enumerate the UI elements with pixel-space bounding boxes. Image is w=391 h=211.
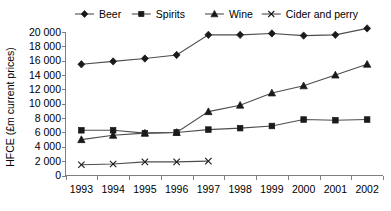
chart-series [78, 25, 371, 68]
series-data-point [364, 117, 370, 123]
chart-series [79, 117, 370, 136]
y-axis-tick-label: 18 000 [29, 40, 61, 52]
chart-series [78, 158, 211, 168]
series-data-point [141, 55, 148, 62]
series-data-point [363, 60, 370, 67]
y-axis-tick-label: 6 000 [35, 126, 61, 138]
series-data-point [301, 117, 307, 123]
legend-marker-square-icon [139, 11, 144, 16]
legend-label: Beer [99, 8, 122, 20]
x-axis-tick-label: 1999 [260, 183, 284, 195]
x-axis-tick-label: 1994 [101, 183, 125, 195]
chart-series-group [78, 25, 371, 168]
legend-label: Cider and perry [286, 8, 359, 20]
series-data-point [205, 31, 212, 38]
series-data-point [332, 31, 339, 38]
series-data-point [364, 25, 371, 32]
series-data-point [78, 61, 85, 68]
series-line [81, 120, 367, 134]
series-data-point [79, 127, 85, 133]
x-axis-tick-label: 1995 [133, 183, 157, 195]
series-data-point [110, 58, 117, 65]
x-axis-tick-label: 2002 [355, 183, 379, 195]
y-axis-title: HFCE (£m current prices) [4, 47, 16, 167]
x-axis-tick-marks [66, 176, 384, 181]
series-data-point [300, 32, 307, 39]
chart-container: BeerSpiritsWineCider and perry HFCE (£m … [0, 0, 391, 211]
series-data-point [333, 117, 339, 123]
y-axis-tick-label: 20 000 [29, 26, 61, 38]
y-axis-tick-label: 2 000 [35, 155, 61, 167]
series-data-point [268, 30, 275, 37]
chart-series [78, 60, 371, 142]
y-axis-tick-label: 16 000 [29, 54, 61, 66]
series-data-point [173, 51, 180, 58]
x-axis-tick-labels: 1993199419951996199719981999200020012002 [70, 183, 379, 195]
x-axis-tick-label: 1998 [228, 183, 252, 195]
y-axis-tick-marks [62, 33, 66, 177]
y-axis-tick-label: 4 000 [35, 140, 61, 152]
x-axis-tick-label: 1997 [197, 183, 221, 195]
y-axis-tick-label: 0 [55, 169, 61, 181]
y-axis-title-label: HFCE (£m current prices) [4, 47, 16, 167]
series-data-point [236, 101, 243, 108]
series-data-point [237, 125, 243, 131]
series-data-point [206, 127, 212, 133]
series-line [81, 28, 367, 64]
series-data-point [237, 31, 244, 38]
x-axis-tick-label: 1996 [165, 183, 189, 195]
legend-item-beer[interactable]: Beer [75, 8, 122, 20]
legend-marker-diamond-icon [81, 11, 88, 18]
chart-legend: BeerSpiritsWineCider and perry [75, 8, 359, 20]
y-axis-tick-label: 8 000 [35, 112, 61, 124]
y-axis-tick-label: 12 000 [29, 83, 61, 95]
legend-item-cider-and-perry[interactable]: Cider and perry [262, 8, 359, 20]
x-axis-tick-label: 2000 [292, 183, 316, 195]
y-axis-tick-labels: 20 00018 00016 00014 00012 00010 0008 00… [29, 26, 61, 182]
x-axis-tick-label: 1993 [70, 183, 94, 195]
legend-item-spirits[interactable]: Spirits [132, 8, 185, 20]
y-axis-tick-label: 10 000 [29, 97, 61, 109]
y-axis-tick-label: 14 000 [29, 69, 61, 81]
legend-label: Wine [229, 8, 253, 20]
legend-item-wine[interactable]: Wine [205, 8, 253, 20]
legend-label: Spirits [156, 8, 185, 20]
series-data-point [269, 123, 275, 129]
line-chart: BeerSpiritsWineCider and perry HFCE (£m … [0, 0, 391, 211]
x-axis-tick-label: 2001 [324, 183, 348, 195]
